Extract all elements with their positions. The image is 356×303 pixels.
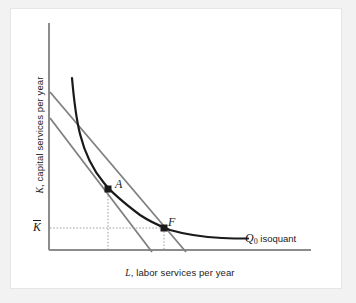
y-axis-label: K, capital services per year [29,55,43,215]
isoquant-label-word: isoquant [258,233,297,244]
isocost-line-lower [50,118,152,252]
isoquant-curve [72,78,248,239]
point-label-a: A [115,177,122,192]
point-marker-f [161,225,168,232]
isoquant-label: Q0 isoquant [245,231,296,246]
point-label-f: F [168,215,175,230]
x-axis-label-text: L, labor services per year [125,267,234,278]
isoquant-isocost-chart [0,0,356,303]
x-axis-label-rest: , labor services per year [131,267,235,278]
kbar-symbol: K [33,220,41,233]
isoquant-label-symbol: Q [245,231,254,245]
figure-page: A F K Q0 isoquant K, capital services pe… [0,0,356,303]
y-axis-tick-label-kbar: K [33,220,41,235]
x-axis-label: L, labor services per year [49,262,311,280]
y-axis-label-rest: , capital services per year [34,77,45,187]
y-axis-label-text: K, capital services per year [34,77,45,194]
y-axis-label-symbol: K [35,187,45,193]
point-marker-a [105,186,112,193]
